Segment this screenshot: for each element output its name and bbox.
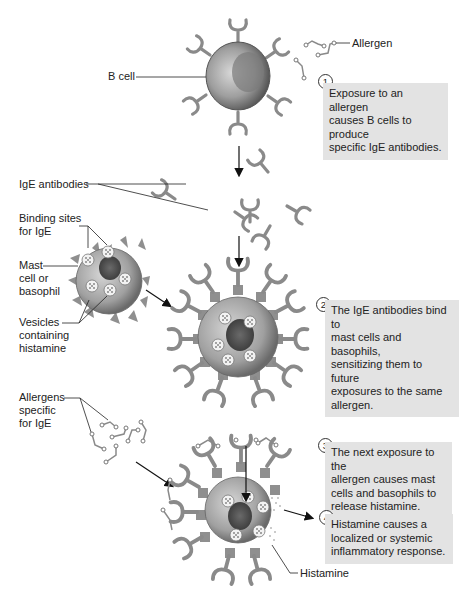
label-allergens-specific: Allergens specific for IgE — [19, 391, 65, 430]
label-ige-antibodies: IgE antibodies — [19, 178, 89, 191]
label-b-cell: B cell — [108, 70, 135, 83]
label-binding-sites: Binding sites for IgE — [19, 212, 81, 238]
label-histamine: Histamine — [300, 567, 349, 580]
degranulating-mast-cell — [161, 436, 290, 584]
b-cell-nucleus — [232, 52, 264, 92]
step-2-box: The IgE antibodies bind to mast cells an… — [325, 300, 459, 417]
step-3-box: The next exposure to the allergen causes… — [325, 442, 452, 519]
allergen-cluster — [90, 420, 146, 464]
step-4-box: Histamine causes a localized or systemic… — [325, 514, 453, 564]
label-mast-cell: Mast cell or basophil — [19, 259, 60, 298]
step-1-box: Exposure to an allergen causes B cells t… — [323, 83, 448, 160]
label-vesicles: Vesicles containing histamine — [19, 316, 69, 355]
free-ige-antibodies — [152, 150, 310, 249]
allergen-molecules — [294, 41, 336, 80]
mast-cell-small — [68, 236, 150, 324]
label-allergen: Allergen — [352, 37, 392, 50]
sensitized-mast-cell — [169, 259, 308, 407]
